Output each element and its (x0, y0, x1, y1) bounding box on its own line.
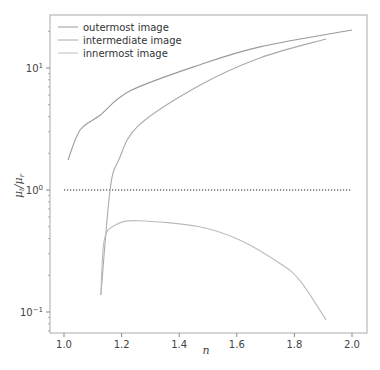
chart: 10110010−1 1.01.21.41.61.82.0 outermost … (0, 0, 380, 370)
x-tick-label: 1.2 (114, 339, 130, 350)
legend: outermost image intermediate image inner… (58, 22, 182, 59)
y-tick-label: 100 (26, 184, 43, 196)
series-group (68, 30, 352, 320)
plot-frame (50, 15, 367, 333)
svg-text:μt/μr: μt/μr (12, 173, 26, 198)
x-tick-label: 1.4 (171, 339, 187, 350)
legend-label-intermediate: intermediate image (83, 35, 182, 46)
series-intermediate (101, 39, 326, 295)
legend-label-outermost: outermost image (83, 22, 169, 33)
x-tick-label: 1.0 (56, 339, 72, 350)
x-tick-label: 2.0 (344, 339, 360, 350)
legend-label-innermost: innermost image (83, 48, 168, 59)
y-axis-label: μt/μr (12, 173, 26, 198)
y-tick-label: 101 (26, 62, 43, 74)
y-tick-label: 10−1 (20, 306, 43, 318)
x-tick-label: 1.8 (286, 339, 302, 350)
x-tick-label: 1.6 (229, 339, 245, 350)
x-axis-label: n (202, 344, 209, 357)
series-innermost (101, 221, 326, 320)
